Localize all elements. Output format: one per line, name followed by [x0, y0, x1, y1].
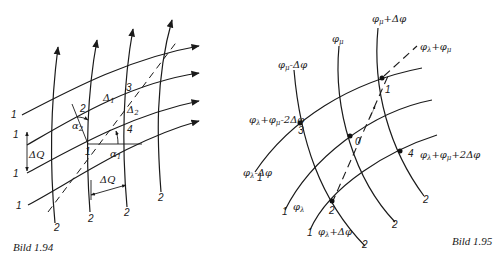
point-4	[398, 149, 403, 154]
label-point1: 1	[385, 84, 391, 95]
label-family2: 2	[87, 213, 94, 224]
curve-family2-c	[124, 29, 133, 207]
figure-1-94: 1 1 1 1 2 2 2 2 1 2 3 4 Δ1 Δ2 α2 α1 ΔQ Δ…	[11, 20, 199, 253]
label-sum-plus-2: φλ+φμ+2Δφ	[420, 149, 480, 162]
label-family2: 2	[123, 207, 130, 218]
label-point1: 1	[85, 146, 91, 157]
point-0	[348, 134, 353, 139]
label-phi-mu-minus: φμ-Δφ	[278, 59, 307, 72]
label-delta2: Δ2	[126, 104, 139, 117]
label-family2: 2	[157, 192, 164, 203]
figure-1-95: φμ+Δφ φμ φλ+φμ φμ-Δφ φλ+φμ-2Δφ φλ-Δφ φλ …	[243, 13, 493, 250]
label-family2: 2	[422, 194, 429, 205]
label-phi-lambda-plus-mu: φλ+φμ	[420, 41, 452, 54]
label-alpha1: α1	[110, 148, 121, 161]
label-family1: 1	[307, 227, 313, 238]
diagonal-arrow	[370, 106, 375, 118]
label-phi-lambda: φλ	[293, 201, 304, 214]
label-phi-lambda-plus: φλ+Δφ	[318, 226, 352, 239]
label-family2: 2	[361, 239, 368, 250]
alpha1-arc	[116, 131, 118, 144]
label-point4: 4	[127, 124, 133, 135]
label-family1: 1	[11, 109, 17, 120]
curve-phi-mu-plus	[377, 28, 424, 196]
curve-phi-mu-minus	[294, 70, 365, 246]
label-family1: 1	[13, 168, 19, 179]
caption-bild-1-95: Bild 1.95	[452, 235, 493, 247]
curve-family2-a	[52, 47, 58, 223]
curve-family2-d	[158, 20, 172, 192]
label-family1: 1	[13, 129, 19, 140]
label-phi-mu: φμ	[332, 33, 344, 46]
label-point2: 2	[79, 103, 86, 114]
label-deltaQ-bottom: ΔQ	[99, 174, 115, 185]
diagonal-dashed-ext	[384, 46, 417, 76]
label-phi-mu-plus: φμ+Δφ	[372, 13, 406, 26]
curve-family2-b	[88, 40, 97, 212]
label-family2: 2	[53, 222, 60, 233]
label-point2: 2	[328, 205, 335, 216]
caption-bild-1-94: Bild 1.94	[13, 241, 54, 253]
diagram-canvas: 1 1 1 1 2 2 2 2 1 2 3 4 Δ1 Δ2 α2 α1 ΔQ Δ…	[0, 0, 499, 262]
curve-phi-mu	[338, 46, 395, 222]
point-2	[330, 199, 335, 204]
label-sum-minus-2: φλ+φμ-2Δφ	[249, 114, 304, 127]
deltaQ-bottom-dimension	[91, 185, 126, 195]
label-deltaQ-left: ΔQ	[28, 149, 44, 160]
label-alpha2: α2	[72, 120, 84, 133]
label-family1: 1	[282, 206, 288, 217]
point-1	[380, 76, 385, 81]
label-family1: 1	[257, 172, 263, 183]
label-point3: 3	[126, 82, 132, 93]
label-family2: 2	[391, 219, 398, 230]
label-family1: 1	[16, 200, 22, 211]
label-point0: 0	[355, 136, 361, 147]
curve-family1-d	[28, 121, 199, 205]
label-point4: 4	[408, 148, 414, 159]
label-point3: 3	[298, 125, 304, 136]
